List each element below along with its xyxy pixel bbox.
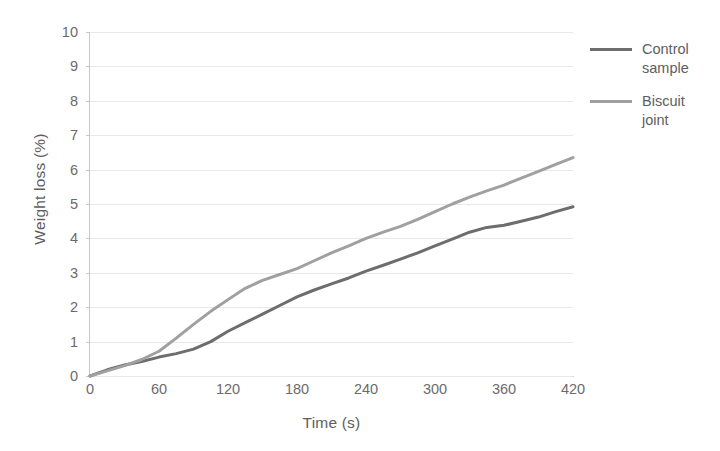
y-tick-label: 5 [38, 196, 78, 212]
legend: Control sampleBiscuit joint [590, 40, 718, 144]
gridline [90, 376, 573, 377]
y-tick-label: 9 [38, 58, 78, 74]
x-tick-label: 120 [198, 381, 258, 397]
legend-entry[interactable]: Control sample [590, 40, 718, 78]
y-tick-label: 8 [38, 93, 78, 109]
line-chart: Weight loss (%) 012345678910 06012018024… [0, 0, 720, 451]
plot-area [90, 32, 573, 376]
x-tick-label: 60 [129, 381, 189, 397]
series-line [90, 158, 573, 376]
x-tick-label: 420 [543, 381, 603, 397]
y-axis-title: Weight loss (%) [31, 89, 49, 289]
x-tick-label: 300 [405, 381, 465, 397]
legend-label: Biscuit joint [642, 92, 714, 130]
y-tick-label: 6 [38, 162, 78, 178]
series-lines [90, 32, 573, 376]
legend-entry[interactable]: Biscuit joint [590, 92, 718, 130]
legend-swatch [590, 48, 632, 51]
x-axis-title: Time (s) [90, 414, 573, 432]
y-tick-label: 4 [38, 230, 78, 246]
x-tick-label: 360 [474, 381, 534, 397]
x-tick-label: 240 [336, 381, 396, 397]
y-tick-label: 7 [38, 127, 78, 143]
y-tick-label: 10 [38, 24, 78, 40]
x-tick-label: 0 [60, 381, 120, 397]
y-tick-label: 3 [38, 265, 78, 281]
series-line [90, 207, 573, 376]
x-tick-label: 180 [267, 381, 327, 397]
legend-label: Control sample [642, 40, 714, 78]
y-tick-label: 1 [38, 334, 78, 350]
y-tick-label: 2 [38, 299, 78, 315]
legend-swatch [590, 100, 632, 103]
